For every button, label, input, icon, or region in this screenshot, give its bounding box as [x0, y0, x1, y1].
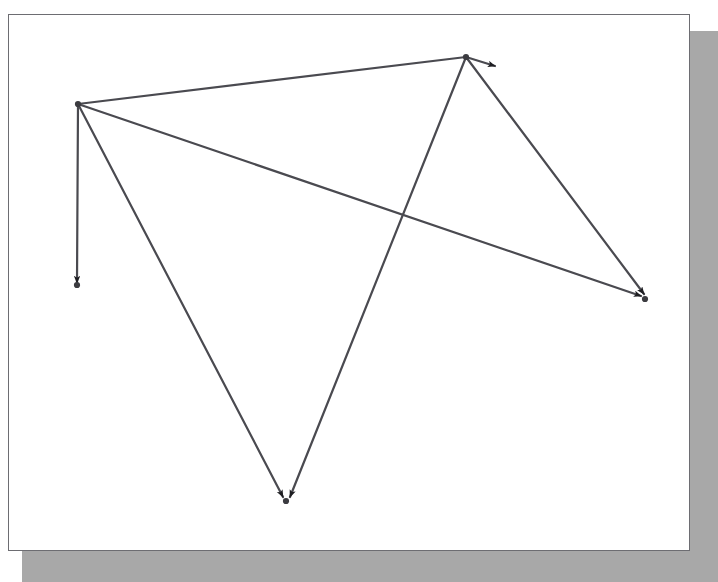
graph-node[interactable] — [642, 296, 648, 302]
graph-canvas[interactable] — [0, 0, 718, 582]
graph-edge[interactable] — [290, 57, 466, 497]
application-window — [0, 0, 718, 582]
graph-edge[interactable] — [77, 104, 78, 283]
graph-node[interactable] — [75, 101, 81, 107]
graph-edges-layer — [77, 57, 644, 497]
graph-edge[interactable] — [466, 57, 644, 294]
graph-nodes-layer — [74, 54, 648, 504]
graph-node[interactable] — [283, 498, 289, 504]
graph-node[interactable] — [463, 54, 469, 60]
graph-edge[interactable] — [78, 57, 466, 104]
graph-node[interactable] — [74, 282, 80, 288]
